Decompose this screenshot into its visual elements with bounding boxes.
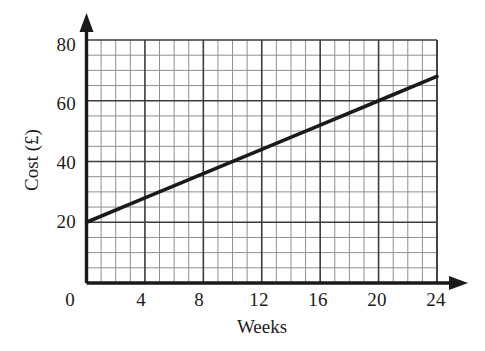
x-tick-label-4: 4 [136, 289, 146, 311]
x-tick-label-24: 24 [426, 289, 445, 311]
x-tick-label-8: 8 [194, 289, 204, 311]
y-axis-title: Cost (£) [21, 129, 43, 191]
grid-major-lines [87, 40, 438, 283]
y-tick-label-80: 80 [46, 34, 76, 56]
y-tick-label-60: 60 [46, 93, 76, 115]
x-tick-label-16: 16 [308, 289, 327, 311]
axis-lines [80, 13, 469, 290]
y-tick-label-20: 20 [46, 211, 76, 233]
y-tick-label-40: 40 [46, 152, 76, 174]
line-chart-figure: 80 60 40 20 0 4 8 12 16 20 24 Weeks Cost… [0, 0, 485, 351]
x-axis-arrow-icon [449, 276, 468, 290]
x-tick-label-0: 0 [65, 289, 75, 311]
x-tick-label-12: 12 [249, 289, 268, 311]
x-tick-label-20: 20 [367, 289, 386, 311]
y-axis-arrow-icon [80, 13, 94, 32]
x-axis-title: Weeks [237, 316, 287, 338]
